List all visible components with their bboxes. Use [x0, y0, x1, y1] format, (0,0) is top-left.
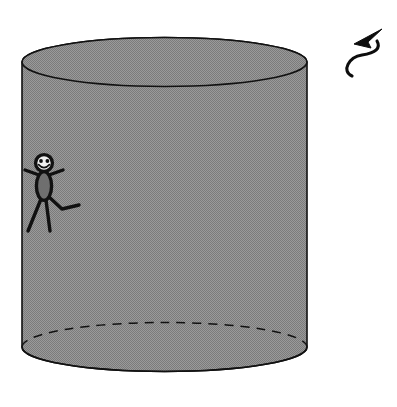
figure-head [36, 155, 53, 172]
cylinder [22, 38, 307, 372]
cylinder-body [22, 38, 307, 372]
cylinder-illustration [0, 0, 397, 407]
figure-eye-left [39, 159, 43, 163]
cylinder-top-face [22, 38, 307, 87]
figure-eye-right [46, 159, 50, 163]
figure-torso [36, 172, 51, 201]
